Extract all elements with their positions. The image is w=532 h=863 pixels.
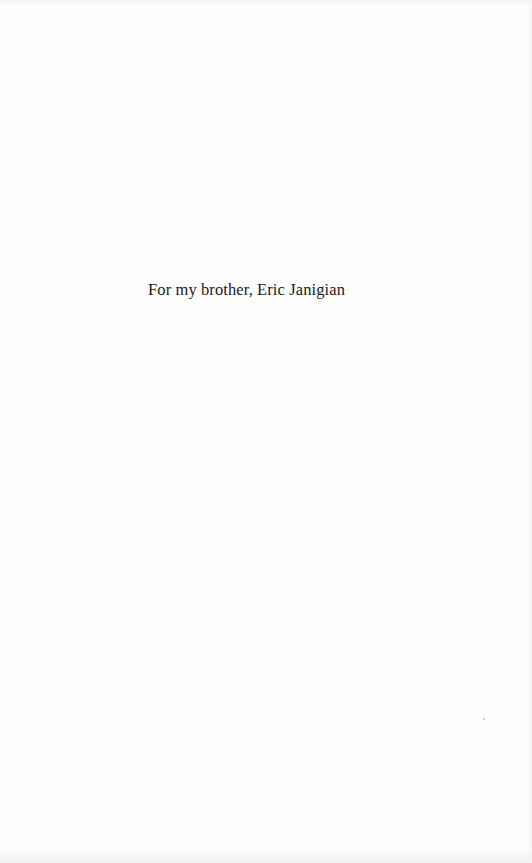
scan-shadow-right xyxy=(526,0,532,863)
dedication-text: For my brother, Eric Janigian xyxy=(148,280,345,300)
scan-speck xyxy=(483,718,485,720)
book-page: For my brother, Eric Janigian xyxy=(0,0,532,863)
scan-shadow-bottom xyxy=(0,849,532,863)
scan-shadow-top xyxy=(0,0,532,6)
